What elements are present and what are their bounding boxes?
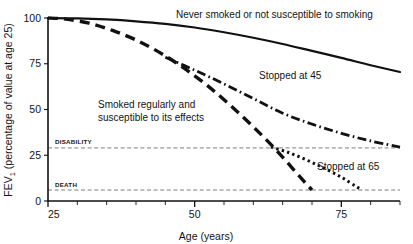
y-tick-label: 100 — [23, 12, 41, 24]
y-tick-label: 25 — [29, 149, 41, 161]
y-axis-title-rest: (percentage of value at age 25) — [2, 23, 14, 172]
x-tick-label: 25 — [48, 208, 60, 220]
fev1-decline-chart: 0255075100 255075 DISABILITYDEATH Age (y… — [0, 0, 413, 244]
x-axis-title: Age (years) — [179, 230, 233, 242]
chart-background — [0, 0, 413, 244]
y-axis-title-main: FEV — [2, 176, 14, 196]
series-label-stopped-at-45: Stopped at 45 — [259, 70, 322, 81]
x-tick-label: 50 — [189, 208, 201, 220]
chart-container: 0255075100 255075 DISABILITYDEATH Age (y… — [0, 0, 413, 244]
series-label-never-smoked: Never smoked or not susceptible to smoki… — [176, 9, 373, 20]
y-tick-label: 75 — [29, 57, 41, 69]
series-label-stopped-at-65: Stopped at 65 — [317, 161, 380, 172]
y-tick-label: 0 — [35, 195, 41, 207]
x-tick-label: 75 — [335, 208, 347, 220]
y-tick-label: 50 — [29, 103, 41, 115]
threshold-label-disability: DISABILITY — [55, 138, 92, 145]
series-label-smoked-line1: Smoked regularly and — [98, 99, 195, 110]
series-label-smoked-line2: susceptible to its effects — [98, 112, 204, 123]
threshold-label-death: DEATH — [55, 181, 77, 188]
